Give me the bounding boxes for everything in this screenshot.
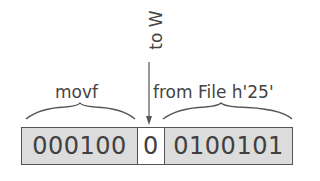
right-brace-icon (163, 103, 292, 119)
destination-bit-field: 0 (137, 128, 164, 164)
movf-label: movf (55, 82, 98, 102)
opcode-field: 000100 (22, 128, 137, 164)
file-address-field: 0100101 (164, 128, 292, 164)
left-brace-icon (26, 103, 135, 119)
instruction-register: 000100 0 0100101 (21, 127, 293, 165)
to-w-label: to W (146, 10, 166, 50)
arrow-head-icon (146, 116, 152, 125)
from-file-label: from File h'25' (153, 82, 274, 102)
